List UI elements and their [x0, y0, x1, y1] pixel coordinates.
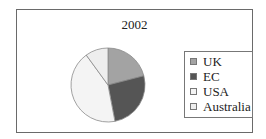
chart-title: 2002	[17, 17, 252, 33]
legend-label: UK	[203, 54, 222, 70]
chart-frame: 2002 UK EC USA Australia	[16, 9, 253, 133]
legend-swatch-australia	[190, 103, 197, 110]
legend-label: EC	[203, 69, 220, 85]
legend-label: Australia	[203, 99, 251, 115]
legend-item-usa: USA	[190, 84, 252, 99]
legend-item-uk: UK	[190, 54, 252, 69]
legend: UK EC USA Australia	[184, 51, 253, 118]
legend-swatch-usa	[190, 88, 197, 95]
legend-item-ec: EC	[190, 69, 252, 84]
legend-swatch-ec	[190, 73, 197, 80]
legend-item-australia: Australia	[190, 99, 252, 114]
legend-label: USA	[203, 84, 229, 100]
pie-chart	[70, 47, 146, 123]
legend-swatch-uk	[190, 58, 197, 65]
